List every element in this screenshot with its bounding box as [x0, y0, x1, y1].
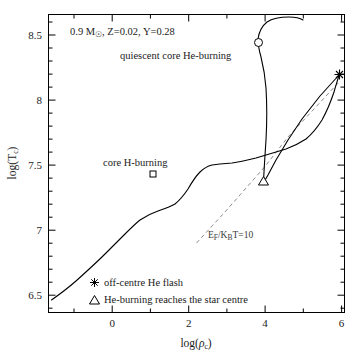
x-tick-label-3: 6: [339, 317, 345, 329]
y-tick-label-2: 7.5: [28, 159, 42, 171]
legend-label-1: He-burning reaches the star centre: [104, 294, 248, 305]
y-axis-title: log(Tc): [6, 146, 20, 179]
x-tick-label-2: 4: [262, 317, 268, 329]
y-tick-label-0: 6.5: [28, 289, 42, 301]
degeneracy-tail: T=10: [233, 230, 254, 240]
legend-item-off-centre-he-flash: off-centre He flash: [90, 277, 184, 288]
chart-figure: 6.5 7 7.5 8 8.5 0 2 4 6 log(ρc) log(Tc): [0, 0, 357, 359]
off-centre-he-flash-star-marker: [335, 70, 345, 80]
svg-text:log(Tc): log(Tc): [6, 146, 20, 179]
legend-star-icon: [90, 278, 99, 287]
quiescent-he-burning-circle-marker: [255, 39, 263, 47]
param-mass: 0.9 M: [70, 26, 96, 37]
y-tick-label-1: 7: [37, 224, 43, 236]
chart-canvas: 6.5 7 7.5 8 8.5 0 2 4 6 log(ρc) log(Tc): [0, 0, 357, 359]
core-h-burning-label: core H-burning: [103, 157, 168, 168]
legend-item-he-burning-centre: He-burning reaches the star centre: [90, 294, 249, 305]
y-tick-label-4: 8.5: [28, 29, 42, 41]
core-h-burning-square-marker: [150, 171, 156, 177]
degeneracy-mid: /K: [218, 230, 228, 240]
svg-text:log(ρc): log(ρc): [180, 337, 211, 351]
y-tick-label-3: 8: [37, 94, 43, 106]
quiescent-he-burning-label: quiescent core He-burning: [120, 50, 232, 61]
x-axis-title: log(ρc): [180, 337, 211, 351]
legend-label-0: off-centre He flash: [104, 277, 184, 288]
x-tick-label-0: 0: [109, 317, 115, 329]
x-tick-label-1: 2: [186, 317, 192, 329]
